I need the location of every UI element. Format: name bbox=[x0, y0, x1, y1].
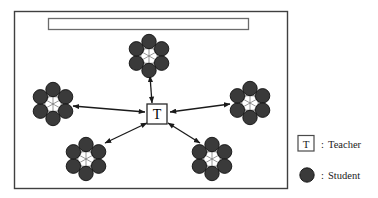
student-node bbox=[154, 42, 168, 56]
student-node bbox=[217, 145, 231, 159]
student-node bbox=[33, 90, 47, 104]
student-node bbox=[192, 159, 206, 173]
student-node bbox=[129, 42, 143, 56]
student-node bbox=[46, 82, 60, 96]
student-node bbox=[33, 104, 47, 118]
legend-item-student: : Student bbox=[300, 168, 360, 182]
whiteboard bbox=[49, 19, 249, 30]
legend-student-symbol bbox=[300, 168, 314, 182]
student-node bbox=[230, 103, 244, 117]
student-node bbox=[255, 89, 269, 103]
student-node bbox=[243, 110, 257, 124]
student-node bbox=[142, 63, 156, 77]
student-node bbox=[66, 159, 80, 173]
student-node bbox=[46, 111, 60, 125]
legend-item-teacher: T : Teacher bbox=[298, 136, 362, 152]
student-node bbox=[243, 81, 257, 95]
student-node bbox=[192, 145, 206, 159]
teacher-label: T bbox=[153, 107, 162, 122]
legend-teacher-separator: : bbox=[321, 139, 324, 150]
student-node bbox=[79, 137, 93, 151]
legend-teacher-symbol-label: T bbox=[303, 138, 310, 150]
student-node bbox=[205, 166, 219, 180]
student-node bbox=[129, 56, 143, 70]
student-node bbox=[142, 34, 156, 48]
legend-student-label: Student bbox=[328, 170, 360, 181]
student-node bbox=[230, 89, 244, 103]
student-node bbox=[205, 137, 219, 151]
student-node bbox=[91, 145, 105, 159]
student-node bbox=[154, 56, 168, 70]
student-node bbox=[217, 159, 231, 173]
student-node bbox=[58, 104, 72, 118]
student-node bbox=[255, 103, 269, 117]
legend: T : Teacher : Student bbox=[298, 136, 362, 183]
student-node bbox=[66, 145, 80, 159]
teacher-node[interactable]: T bbox=[147, 104, 167, 124]
student-node bbox=[91, 159, 105, 173]
legend-teacher-label: Teacher bbox=[328, 139, 362, 150]
classroom-diagram: T T : Teacher : Student bbox=[0, 0, 378, 198]
student-node bbox=[79, 166, 93, 180]
student-node bbox=[58, 90, 72, 104]
legend-student-separator: : bbox=[321, 170, 324, 181]
